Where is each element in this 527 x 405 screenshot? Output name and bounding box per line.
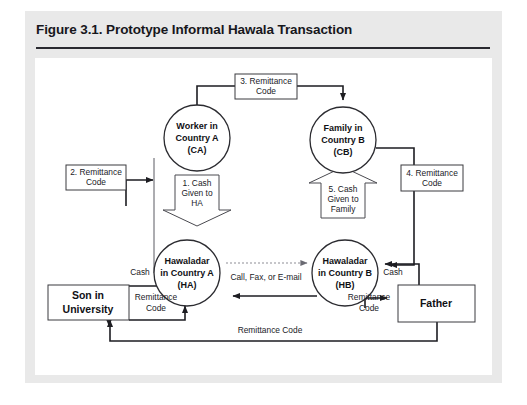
label-remittance-code-left-line2: Code: [146, 303, 166, 313]
edge-step4-to-hb: [390, 213, 414, 265]
label-remittance-code-bottom: Remittance Code: [238, 325, 303, 335]
family-label-line3: (CB): [334, 147, 353, 157]
label-call-fax-email: Call, Fax, or E-mail: [230, 272, 301, 282]
family-label-line2: Country B: [321, 135, 365, 145]
step1-label-line3: HA: [191, 198, 203, 208]
step3-label-line2: Code: [256, 86, 276, 96]
label-remittance-code-right-line2: Code: [359, 303, 379, 313]
hawaladar-b-label-line3: (HB): [336, 280, 355, 290]
hawaladar-a-label-line1: Hawaladar: [164, 256, 210, 266]
hawaladar-b-label-line1: Hawaladar: [322, 256, 368, 266]
edge-worker-to-step3: [197, 86, 235, 106]
figure-title: Figure 3.1. Prototype Informal Hawala Tr…: [36, 22, 486, 37]
step5-label-line3: Family: [331, 204, 356, 214]
diagram-canvas: 3. Remittance Code 2. Remittance Code 4.…: [35, 58, 492, 375]
figure-page: Figure 3.1. Prototype Informal Hawala Tr…: [0, 0, 527, 405]
label-remittance-code-right-line1: Remittance: [348, 292, 391, 302]
worker-label-line3: (CA): [188, 145, 207, 155]
worker-label-line2: Country A: [175, 133, 219, 143]
step4-label-line2: Code: [422, 178, 442, 188]
step2-label-line1: 2. Remittance: [70, 167, 122, 177]
title-rule: [36, 47, 490, 49]
family-label-line1: Family in: [323, 123, 362, 133]
step1-label-line1: 1. Cash: [183, 178, 212, 188]
son-label-line2: University: [63, 303, 114, 315]
label-cash-right: Cash: [383, 267, 403, 277]
hawaladar-a-label-line2: in Country A: [160, 268, 214, 278]
step3-label-line1: 3. Remittance: [240, 76, 292, 86]
hawala-flow-diagram: 3. Remittance Code 2. Remittance Code 4.…: [35, 58, 492, 375]
worker-label-line1: Worker in: [176, 121, 217, 131]
step2-label-line2: Code: [86, 177, 106, 187]
step5-label-line1: 5. Cash: [329, 184, 358, 194]
label-cash-left: Cash: [130, 267, 150, 277]
edge-step2-arrow-to-worker: [126, 180, 153, 206]
father-label: Father: [420, 297, 452, 309]
hawaladar-a-label-line3: (HA): [178, 280, 197, 290]
son-label-line1: Son in: [72, 289, 104, 301]
hawaladar-b-label-line2: in Country B: [318, 268, 372, 278]
step5-label-line2: Given to: [327, 194, 359, 204]
label-remittance-code-left-line1: Remittance: [135, 292, 178, 302]
step1-label-line2: Given to: [181, 188, 213, 198]
step4-label-line1: 4. Remittance: [406, 168, 458, 178]
edge-step3-to-family: [297, 86, 343, 100]
